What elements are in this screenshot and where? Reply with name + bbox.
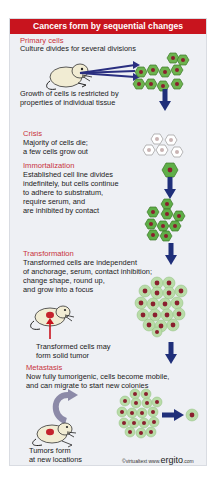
immortalization-text-4: require serum, and [23,197,85,206]
crisis-text-2: a few cells grow out [23,147,88,156]
credit-tld: .com [183,458,194,464]
heading-transformation: Transformation [23,249,74,258]
transformation-text-1: Transformed cells are independent [23,258,137,267]
figure-title: Cancers form by sequential changes [10,19,206,34]
dying-cell-cluster [146,134,186,164]
figure-panel: Cancers form by sequential changes Prima… [9,18,207,466]
immortal-cell-cluster [146,199,194,241]
metastatic-cell-cluster [117,389,163,439]
heading-immortalization: Immortalization [23,161,74,170]
down-arrow-3 [165,243,177,265]
tumor-text-1: Transformed cells may [36,342,110,351]
transformation-text-3: change shape, round up, [23,276,105,285]
surviving-cell [162,163,178,177]
transformed-focus-cluster [135,277,191,335]
down-arrow-1 [159,89,171,111]
down-arrow-2 [164,177,176,199]
metastasis-tumor-text-2: at new locations [29,455,82,464]
right-arrow [162,409,184,421]
arrows-to-culture [80,59,140,89]
heading-crisis: Crisis [23,129,42,138]
primary-note-2: properties of individual tissue [20,98,115,107]
heading-metastasis: Metastasis [26,363,62,372]
immortalization-text-2: indefinitely, but cells continue [23,179,119,188]
tumor-text-2: form solid tumor [36,351,89,360]
metastasis-tumor-text-1: Tumors form [29,446,71,455]
immortalization-text-3: to adhere to substratum, [23,188,103,197]
crisis-text-1: Majority of cells die; [23,138,88,147]
immortalization-text-5: are inhibited by contact [23,206,99,215]
immortalization-text-1: Established cell line divides [23,170,113,179]
credit-line: ©virtualtext www.ergito.com [122,455,194,465]
mouse-with-tumor-icon [28,299,84,341]
migrating-cell [185,408,199,422]
credit-www: www. [148,458,160,464]
primary-text: Culture divides for several divisions [20,44,136,53]
credit-brand: ergito [160,455,183,465]
primary-note-1: Growth of cells is restricted by [20,89,119,98]
transformation-text-4: and grow into a focus [23,285,93,294]
mouse-with-metastasis-icon [28,417,88,449]
credit-copyright: ©virtualtext [122,458,147,464]
down-arrow-4 [165,342,177,364]
transformation-text-2: of anchorage, serum, contact inhibition; [23,267,152,276]
metastasis-text-1: Now fully tumorigenic, cells become mobi… [26,372,169,381]
